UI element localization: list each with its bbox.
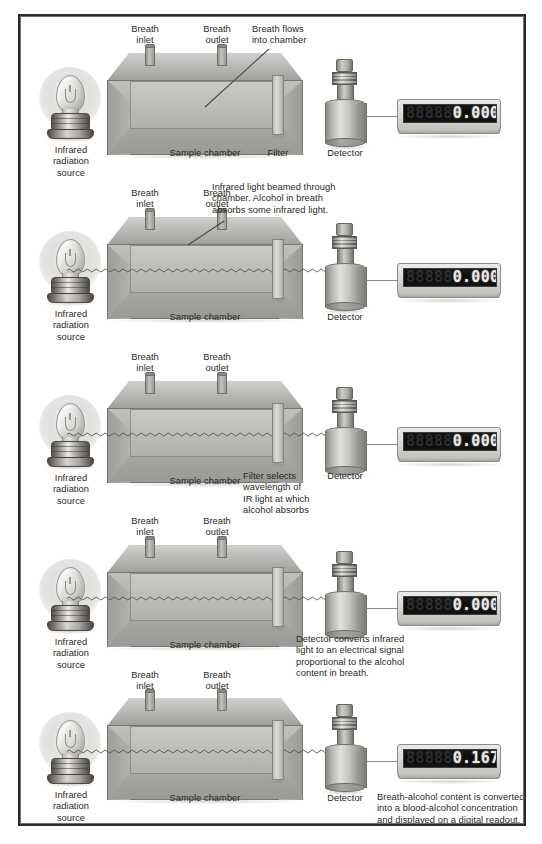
readout-case: 88888 0.000	[397, 591, 501, 623]
bulb-filament	[65, 89, 76, 103]
breathalyzer-diagram: Infraredradiationsource Breathinlet Brea…	[0, 0, 542, 844]
detector-body	[325, 748, 367, 788]
bulb-shadow	[43, 300, 97, 306]
infrared-source-bulb-icon	[39, 67, 101, 141]
panel-5: Infraredradiationsource Breathinlet Brea…	[21, 668, 529, 829]
filter-shadow	[269, 626, 287, 631]
panel-1-leader-line	[201, 47, 271, 109]
detector-cap	[336, 387, 353, 400]
detector-ridges	[332, 717, 357, 730]
bulb-base-ring	[51, 615, 88, 616]
infrared-beam	[67, 748, 337, 755]
readout-screen: 88888 0.000	[403, 268, 497, 287]
detector-readout-wire	[365, 761, 399, 762]
bulb-base-ring	[51, 118, 88, 119]
detector-ridges	[332, 72, 357, 85]
readout-dim-digits: 88888	[404, 106, 453, 121]
detector-label: Detector	[317, 793, 373, 804]
panel-3: Infraredradiationsource Breathinlet Brea…	[21, 345, 529, 509]
bulb-shadow	[43, 781, 97, 787]
bulb-base-ring	[51, 768, 88, 769]
filter-shadow	[269, 779, 287, 784]
readout-dim-digits: 88888	[404, 270, 453, 285]
optical-filter	[272, 567, 284, 627]
breath-inlet-label: Breathinlet	[117, 516, 173, 539]
detector-body	[325, 595, 367, 635]
detector-ridges	[332, 236, 357, 249]
detector-readout-wire	[365, 280, 399, 281]
panel-2-callout: Infrared light beamed throughchamber. Al…	[212, 182, 392, 216]
digital-readout: 88888 0.000	[397, 591, 501, 629]
filter-shadow	[269, 298, 287, 303]
sample-chamber-label: Sample chamber	[129, 640, 281, 651]
readout-screen: 88888 0.000	[403, 596, 497, 615]
detector-body	[325, 431, 367, 471]
bulb-filament	[65, 417, 76, 431]
bulb-base-ring	[51, 451, 88, 452]
bulb-base-ring	[51, 123, 88, 124]
bulb-shadow	[43, 628, 97, 634]
readout-screen: 88888 0.167	[403, 749, 497, 768]
breath-inlet-label: Breathinlet	[117, 352, 173, 375]
filter-body	[272, 567, 284, 627]
panel-2: Infraredradiationsource Breathinlet Brea…	[21, 181, 529, 345]
bulb-filament	[65, 734, 76, 748]
bulb-base-ring	[51, 287, 88, 288]
filter-label: Filter	[250, 148, 306, 159]
readout-screen: 88888 0.000	[403, 104, 497, 123]
breath-inlet-label: Breathinlet	[117, 24, 173, 47]
bulb-base-ring	[51, 763, 88, 764]
readout-value: 0.000	[453, 598, 497, 613]
ir-source-label: Infraredradiationsource	[25, 473, 117, 507]
filter-body	[272, 239, 284, 299]
diagram-frame: Infraredradiationsource Breathinlet Brea…	[18, 14, 526, 826]
readout-screen: 88888 0.000	[403, 432, 497, 451]
bulb-filament	[65, 253, 76, 267]
sample-chamber-label: Sample chamber	[129, 793, 281, 804]
digital-readout: 88888 0.000	[397, 99, 501, 137]
sample-chamber-label: Sample chamber	[129, 312, 281, 323]
panel-1-callout: Breath flowsinto chamber	[252, 24, 372, 47]
optical-filter	[272, 403, 284, 463]
infrared-beam	[67, 267, 337, 274]
detector-label: Detector	[317, 312, 373, 323]
detector-body	[325, 103, 367, 143]
filter-body	[272, 720, 284, 780]
panel-4: Infraredradiationsource Breathinlet Brea…	[21, 509, 529, 673]
detector-label: Detector	[317, 148, 373, 159]
digital-readout: 88888 0.000	[397, 427, 501, 465]
panel-1: Infraredradiationsource Breathinlet Brea…	[21, 17, 529, 185]
ir-source-label: Infraredradiationsource	[25, 790, 117, 824]
bulb-shadow	[43, 136, 97, 142]
optical-filter	[272, 75, 284, 135]
detector	[321, 704, 369, 792]
readout-value: 0.167	[453, 751, 497, 766]
readout-value: 0.000	[453, 434, 497, 449]
detector-cap	[336, 59, 353, 72]
breath-inlet-nozzle	[145, 44, 155, 66]
detector-ridges	[332, 400, 357, 413]
readout-shadow	[395, 134, 503, 139]
detector	[321, 223, 369, 311]
filter-body	[272, 403, 284, 463]
detector-cap	[336, 704, 353, 717]
readout-case: 88888 0.000	[397, 427, 501, 459]
breath-inlet-nozzle	[145, 372, 155, 394]
detector-ridges	[332, 564, 357, 577]
readout-shadow	[395, 298, 503, 303]
breath-inlet-nozzle	[145, 536, 155, 558]
detector-label: Detector	[317, 471, 373, 482]
breath-outlet-nozzle	[217, 372, 227, 394]
detector-body	[325, 267, 367, 307]
detector-readout-wire	[365, 608, 399, 609]
readout-shadow	[395, 626, 503, 631]
readout-case: 88888 0.000	[397, 99, 501, 131]
breath-outlet-label: Breathoutlet	[189, 516, 245, 539]
readout-shadow	[395, 779, 503, 784]
filter-shadow	[269, 134, 287, 139]
bulb-shadow	[43, 464, 97, 470]
panel-2-leader-line	[186, 219, 226, 247]
detector-readout-wire	[365, 444, 399, 445]
digital-readout: 88888 0.167	[397, 744, 501, 782]
readout-value: 0.000	[453, 270, 497, 285]
